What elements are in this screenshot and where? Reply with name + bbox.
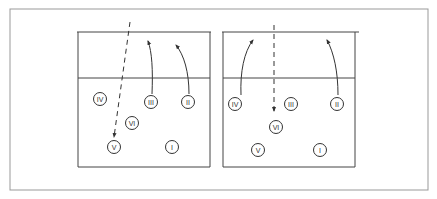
player-label: IV: [97, 96, 104, 103]
player-label: IV: [232, 101, 239, 108]
player-label: VI: [129, 120, 136, 127]
player-label: V: [112, 144, 117, 151]
player-i: I: [314, 144, 327, 157]
player-v: V: [252, 144, 265, 157]
player-ii: II: [331, 98, 344, 111]
player-i: I: [166, 141, 179, 154]
player-v: V: [108, 141, 121, 154]
player-iii: III: [285, 98, 298, 111]
player-label: VI: [273, 124, 280, 131]
player-label: III: [288, 101, 294, 108]
player-iv: IV: [229, 98, 242, 111]
player-label: I: [171, 144, 173, 151]
arrow-ii: [176, 45, 189, 94]
player-vi: VI: [126, 117, 139, 130]
player-iv: IV: [94, 93, 107, 106]
player-label: V: [256, 147, 261, 154]
rotation-diagram: IVIIIIIVIVI IVIIIIIVIVI: [0, 0, 437, 199]
player-label: II: [186, 99, 190, 106]
outer-frame: [10, 9, 428, 190]
player-vi: VI: [270, 121, 283, 134]
player-label: I: [319, 147, 321, 154]
arrow-iv: [241, 40, 253, 95]
player-label: III: [148, 99, 154, 106]
player-ii: II: [182, 96, 195, 109]
arrow-iii: [148, 41, 152, 94]
arrow-ii: [327, 40, 338, 95]
player-iii: III: [145, 96, 158, 109]
court-left: IVIIIIIVIVI: [77, 22, 211, 167]
court-right: IVIIIIIVIVI: [222, 25, 359, 167]
player-label: II: [335, 101, 339, 108]
